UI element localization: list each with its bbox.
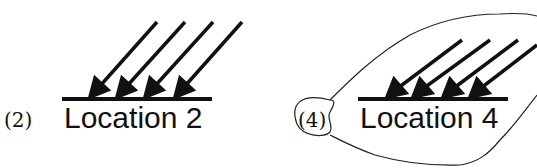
panel-number-label: (4) [298, 108, 326, 132]
location-label: Location 2 [64, 101, 202, 134]
location-label: Location 4 [360, 101, 498, 134]
diagram-canvas: (2) Location 2 (4) Location 4 [0, 0, 537, 168]
panel-location-2: (2) Location 2 [4, 22, 242, 134]
incoming-arrows [90, 22, 242, 97]
panel-location-4: (4) Location 4 [295, 14, 537, 166]
incoming-arrows [387, 40, 537, 97]
panel-number-label: (2) [4, 108, 32, 132]
